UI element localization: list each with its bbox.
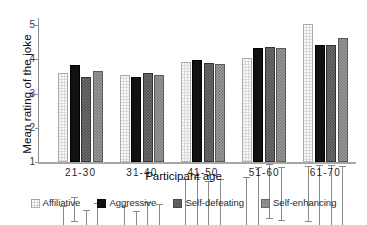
bar[interactable]: [181, 62, 191, 162]
y-tick-mark: [35, 59, 38, 60]
x-axis-line: [38, 162, 356, 164]
y-tick-label: 5: [13, 20, 35, 30]
bar[interactable]: [303, 24, 313, 162]
bar[interactable]: [93, 71, 103, 162]
bar[interactable]: [70, 65, 80, 162]
legend-item[interactable]: Self-enhancing: [261, 198, 336, 208]
error-bar-cap-upper: [133, 211, 140, 212]
bar[interactable]: [215, 64, 225, 162]
bar-group: [181, 18, 226, 162]
legend-label: Self-enhancing: [273, 198, 336, 208]
error-bar-cap-upper: [328, 165, 335, 166]
bar[interactable]: [242, 58, 252, 162]
bar-group: [303, 18, 348, 162]
bar[interactable]: [143, 73, 153, 162]
affiliative-swatch: [31, 199, 40, 208]
bar-group: [58, 18, 103, 162]
error-bar-cap-lower: [71, 221, 78, 222]
bar[interactable]: [81, 77, 91, 162]
error-bar-cap-lower: [278, 220, 285, 221]
error-bar-cap-upper: [83, 210, 90, 211]
bar[interactable]: [276, 48, 286, 162]
error-bar-stem: [86, 210, 87, 225]
legend-label: Affiliative: [43, 198, 81, 208]
legend-label: Self-defeating: [185, 198, 244, 208]
y-tick-mark: [35, 94, 38, 95]
error-bar-cap-lower: [266, 218, 273, 219]
y-tick-label: 1: [13, 157, 35, 167]
bar[interactable]: [265, 47, 275, 162]
bar[interactable]: [58, 73, 68, 162]
y-tick-mark: [35, 128, 38, 129]
aggressive-swatch: [97, 199, 106, 208]
y-tick-label: 2: [13, 123, 35, 133]
y-tick-mark: [35, 25, 38, 26]
bar[interactable]: [192, 60, 202, 162]
x-axis-title: Participant age: [0, 170, 367, 182]
error-bar-stem: [63, 206, 64, 225]
bar[interactable]: [326, 45, 336, 162]
y-tick-mark: [35, 162, 38, 163]
error-bar-stem: [124, 206, 125, 225]
bar[interactable]: [131, 77, 141, 162]
error-bar-stem: [136, 211, 137, 225]
error-bar-cap-upper: [266, 164, 273, 165]
y-tick-label: 4: [13, 54, 35, 64]
y-tick-label: 3: [13, 89, 35, 99]
legend-item[interactable]: Self-defeating: [173, 198, 244, 208]
bar-group: [120, 18, 165, 162]
bar[interactable]: [120, 75, 130, 162]
bar[interactable]: [253, 48, 263, 162]
plot-area: 12345 21-3031-4041-5051-6061-70: [38, 18, 356, 163]
legend-item[interactable]: Affiliative: [31, 198, 81, 208]
bar-chart-figure: Mean rating of the joke 12345 21-3031-40…: [0, 0, 367, 225]
error-bar-cap-lower: [305, 221, 312, 222]
self-defeating-swatch: [173, 199, 182, 208]
legend-label: Aggressive: [109, 198, 156, 208]
y-axis-line: [38, 18, 39, 163]
bar[interactable]: [154, 75, 164, 162]
error-bar-cap-upper: [316, 165, 323, 166]
self-enhancing-swatch: [261, 199, 270, 208]
bar-group: [242, 18, 287, 162]
bar[interactable]: [338, 38, 348, 162]
legend-item[interactable]: Aggressive: [97, 198, 156, 208]
bar[interactable]: [315, 45, 325, 162]
bar[interactable]: [204, 63, 214, 162]
chart-legend: AffiliativeAggressiveSelf-defeatingSelf-…: [0, 198, 367, 208]
